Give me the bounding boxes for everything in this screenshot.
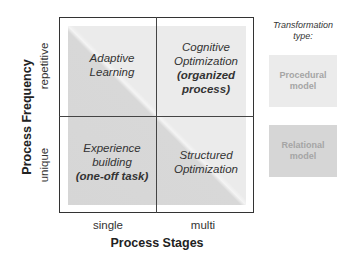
legend-relational-model: Relational model [269, 125, 337, 177]
quadrant-label-line: building [66, 155, 158, 169]
legend-label: Relational model [278, 140, 328, 162]
quadrant-emphasis: (one-off task) [66, 169, 158, 183]
vertical-divider [156, 17, 157, 213]
y-axis-title: Process Frequency [20, 59, 36, 175]
legend-label: Procedural model [278, 70, 328, 92]
quadrant-label-line: Cognitive [160, 40, 252, 54]
legend-procedural-model: Procedural model [269, 55, 337, 107]
quadrant-label-line: Experience [66, 141, 158, 155]
quadrant-label-line: Adaptive [70, 51, 154, 65]
x-tick-multi: multi [173, 219, 233, 231]
x-tick-single: single [78, 219, 138, 231]
y-tick-repetitive: repetitive [38, 36, 52, 96]
quadrant-label-line: Structured [160, 148, 252, 162]
legend-title-text: Transformation type: [272, 20, 334, 42]
horizontal-divider [59, 116, 254, 117]
quadrant-cognitive-optimization: Cognitive Optimization (organized proces… [160, 40, 252, 96]
x-axis-title: Process Stages [97, 236, 217, 250]
quadrant-label-line: Optimization [160, 162, 252, 176]
quadrant-label-line: Learning [70, 65, 154, 79]
y-tick-unique: unique [38, 135, 52, 195]
legend-title: Transformation type: [266, 20, 340, 42]
quadrant-adaptive-learning: Adaptive Learning [70, 51, 154, 79]
quadrant-emphasis: (organized process) [171, 68, 241, 96]
quadrant-experience-building: Experience building (one-off task) [66, 141, 158, 183]
quadrant-label-line: Optimization [160, 54, 252, 68]
quadrant-structured-optimization: Structured Optimization [160, 148, 252, 176]
